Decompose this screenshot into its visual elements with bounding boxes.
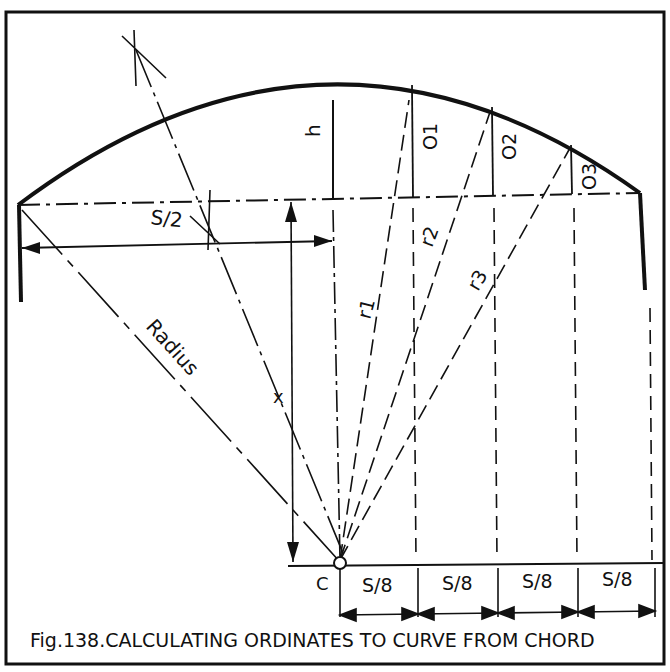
label-r3: r3	[462, 266, 491, 294]
arc-intersection-mark	[122, 30, 166, 86]
x-dimension	[291, 202, 293, 562]
label-center: C	[316, 573, 329, 594]
label-r2: r2	[415, 223, 442, 249]
label-o3: O3	[578, 163, 600, 190]
right-post	[640, 193, 645, 290]
label-o1: O1	[419, 123, 441, 150]
segment-label-2: S/8	[442, 572, 473, 594]
label-half-span: S/2	[149, 205, 184, 232]
half-span-dimension	[22, 241, 332, 248]
segment-label-3: S/8	[522, 570, 553, 592]
center-point	[334, 557, 346, 569]
ordinate-3	[571, 145, 572, 194]
segment-label-4: S/8	[602, 568, 633, 590]
arc-curve	[18, 84, 640, 205]
label-o2: O2	[498, 133, 520, 160]
label-rise: h	[301, 124, 325, 137]
label-radius: Radius	[141, 314, 204, 380]
chord-ordinates-diagram: S/2 h Radius x C O1 O2 O3 r1 r2 r3 S/8 S…	[0, 0, 670, 672]
chord-line	[18, 193, 640, 205]
figure-caption: Fig.138.CALCULATING ORDINATES TO CURVE F…	[30, 629, 595, 651]
label-x: x	[273, 386, 284, 407]
ordinate-1	[412, 85, 413, 198]
ordinate-2	[492, 107, 493, 196]
segment-label-1: S/8	[362, 574, 393, 596]
label-r1: r1	[353, 296, 379, 321]
left-post	[19, 205, 21, 302]
